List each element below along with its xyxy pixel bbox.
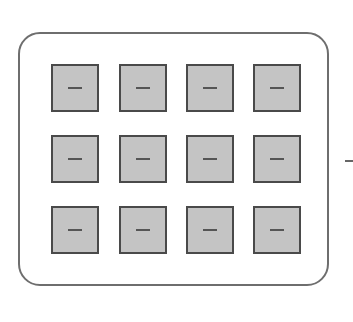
tile-2-1 xyxy=(119,206,167,254)
minus-icon xyxy=(203,87,217,89)
minus-icon xyxy=(68,87,82,89)
minus-icon xyxy=(136,158,150,160)
minus-icon xyxy=(203,158,217,160)
tile-1-3 xyxy=(253,135,301,183)
tile-1-2 xyxy=(186,135,234,183)
tile-1-1 xyxy=(119,135,167,183)
tile-0-0 xyxy=(51,64,99,112)
minus-icon xyxy=(203,229,217,231)
minus-icon xyxy=(136,229,150,231)
tile-1-0 xyxy=(51,135,99,183)
tile-0-1 xyxy=(119,64,167,112)
tile-0-3 xyxy=(253,64,301,112)
minus-icon xyxy=(68,229,82,231)
side-dash-mark xyxy=(345,160,353,162)
tile-2-3 xyxy=(253,206,301,254)
tile-2-2 xyxy=(186,206,234,254)
minus-icon xyxy=(136,87,150,89)
minus-icon xyxy=(270,229,284,231)
tile-2-0 xyxy=(51,206,99,254)
minus-icon xyxy=(270,158,284,160)
tile-0-2 xyxy=(186,64,234,112)
minus-icon xyxy=(68,158,82,160)
minus-icon xyxy=(270,87,284,89)
